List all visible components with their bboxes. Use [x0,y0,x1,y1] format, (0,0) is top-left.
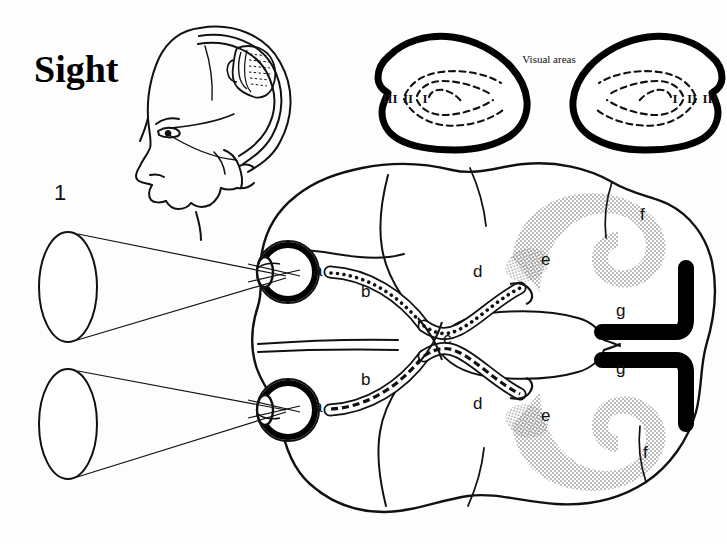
label-a-lower: a [313,397,323,416]
label-d-lower: d [473,394,482,413]
field-ellipse-lower [39,369,97,479]
sight-diagram: Sight [0,0,727,544]
eye-lower [257,379,319,441]
label-a-upper: a [313,261,323,280]
numeral-I-right: I [672,91,677,106]
label-d-upper: d [473,262,482,281]
numeral-II-left: II [403,91,413,106]
label-g-upper: g [616,301,625,320]
visual-areas-label: Visual areas [522,53,575,65]
label-b-upper: b [361,282,370,301]
numeral-II-right: II [687,91,697,106]
numeral-III-left: III [382,91,397,106]
label-g-lower: g [616,359,625,378]
label-f-lower: f [643,443,648,462]
label-b-lower: b [361,370,370,389]
label-f-upper: f [640,205,645,224]
figure-canvas: Sight [0,0,727,544]
numeral-III-right: III [702,91,717,106]
label-e-upper: e [541,250,550,269]
label-e-lower: e [541,406,550,425]
numeral-I-left: I [422,91,427,106]
page-title: Sight [34,48,119,90]
field-ellipse-upper [39,232,97,342]
label-c-chiasm: c [443,329,452,348]
field-number-1: 1 [54,180,66,205]
